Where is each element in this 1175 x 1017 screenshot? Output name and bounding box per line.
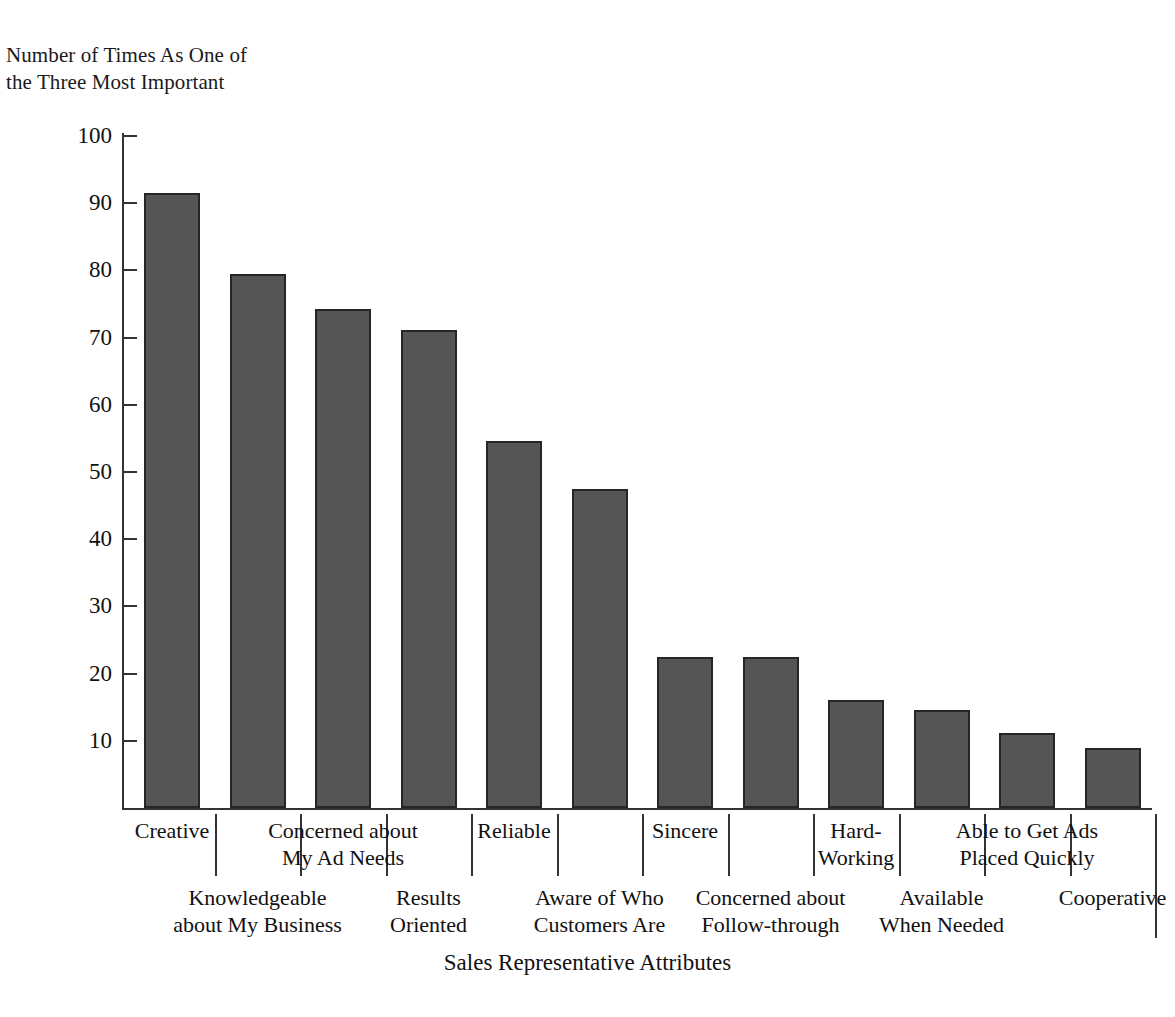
x-axis-line bbox=[122, 808, 1152, 810]
bar bbox=[743, 657, 799, 808]
bar bbox=[999, 733, 1055, 808]
y-tick-label: 100 bbox=[52, 124, 112, 147]
y-tick-label: 20 bbox=[52, 662, 112, 685]
y-tick-label: 80 bbox=[52, 258, 112, 281]
category-label: Able to Get Ads Placed Quickly bbox=[922, 817, 1132, 871]
bar bbox=[914, 710, 970, 808]
y-tick-mark bbox=[124, 202, 137, 204]
bar bbox=[657, 657, 713, 808]
bar bbox=[315, 309, 371, 808]
y-tick-mark bbox=[124, 471, 137, 473]
bar bbox=[144, 193, 200, 808]
y-tick-mark bbox=[124, 404, 137, 406]
bar-chart-figure: Number of Times As One of the Three Most… bbox=[0, 0, 1175, 1017]
y-tick-mark bbox=[124, 135, 137, 137]
category-label: Cooperative bbox=[1008, 884, 1175, 911]
y-tick-mark bbox=[124, 740, 137, 742]
y-tick-label: 70 bbox=[52, 326, 112, 349]
plot-area: 102030405060708090100 bbox=[122, 133, 1152, 810]
y-tick-mark bbox=[124, 605, 137, 607]
y-tick-mark bbox=[124, 538, 137, 540]
bar bbox=[401, 330, 457, 808]
bar bbox=[486, 441, 542, 808]
y-tick-mark bbox=[124, 337, 137, 339]
y-axis-caption: Number of Times As One of the Three Most… bbox=[6, 42, 247, 96]
y-tick-label: 40 bbox=[52, 527, 112, 550]
x-axis-title: Sales Representative Attributes bbox=[0, 950, 1175, 976]
bar bbox=[1085, 748, 1141, 808]
bar bbox=[572, 489, 628, 808]
y-tick-label: 30 bbox=[52, 594, 112, 617]
y-tick-mark bbox=[124, 269, 137, 271]
y-tick-label: 60 bbox=[52, 393, 112, 416]
y-tick-mark bbox=[124, 673, 137, 675]
y-tick-label: 50 bbox=[52, 460, 112, 483]
y-tick-label: 10 bbox=[52, 729, 112, 752]
bar bbox=[828, 700, 884, 808]
category-separator bbox=[1155, 814, 1157, 938]
bar bbox=[230, 274, 286, 808]
y-tick-label: 90 bbox=[52, 191, 112, 214]
